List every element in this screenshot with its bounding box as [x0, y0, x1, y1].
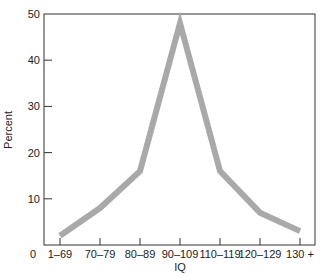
- y-tick-label: 40: [28, 54, 40, 66]
- x-axis-label: IQ: [174, 261, 186, 273]
- y-axis: 01020304050: [28, 8, 52, 260]
- x-tick-label: 80–89: [125, 248, 156, 260]
- x-axis: 1–6970–7980–8990–109110–119120–129130 +: [48, 238, 314, 260]
- x-tick-label: 130 +: [286, 248, 314, 260]
- data-line: [60, 23, 300, 236]
- y-tick-label: 30: [28, 100, 40, 112]
- x-tick-label: 110–119: [199, 248, 240, 260]
- x-tick-label: 1–69: [48, 248, 72, 260]
- y-tick-label: 20: [28, 147, 40, 159]
- x-tick-label: 120–129: [239, 248, 282, 260]
- y-tick-label: 0: [30, 248, 36, 260]
- x-tick-label: 90–109: [162, 248, 199, 260]
- y-axis-label: Percent: [2, 111, 14, 149]
- iq-distribution-chart: 01020304050 1–6970–7980–8990–109110–1191…: [0, 0, 325, 276]
- y-tick-label: 10: [28, 193, 40, 205]
- x-tick-label: 70–79: [85, 248, 116, 260]
- y-tick-label: 50: [28, 8, 40, 20]
- plot-frame: [44, 14, 315, 245]
